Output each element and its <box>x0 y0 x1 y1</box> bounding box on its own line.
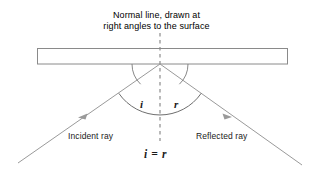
incident-ray-arrowhead <box>78 114 88 120</box>
angle-equality-label: i = r <box>144 148 167 160</box>
caption-line-1: Normal line, drawn at <box>0 10 313 21</box>
right-angle-arc-left <box>132 64 141 84</box>
mirror-surface-rect <box>38 49 288 65</box>
angle-of-reflection-label: r <box>174 98 178 110</box>
incident-ray-label: Incident ray <box>68 131 113 141</box>
normal-line-caption: Normal line, drawn at right angles to th… <box>0 10 313 32</box>
reflected-ray-label: Reflected ray <box>196 131 247 141</box>
caption-line-2: right angles to the surface <box>0 21 313 32</box>
reflection-diagram: Normal line, drawn at right angles to th… <box>0 0 313 190</box>
incident-ray-line <box>18 64 160 163</box>
angle-of-incidence-label: i <box>140 98 143 110</box>
reflected-ray-line <box>160 64 302 165</box>
